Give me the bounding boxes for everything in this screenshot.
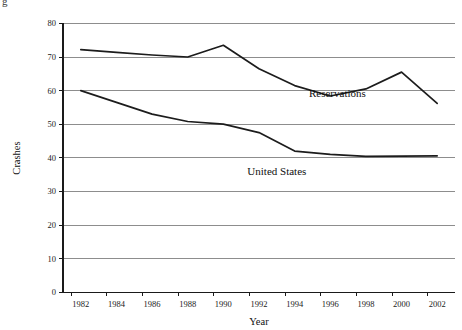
x-tick-label-1982: 1982	[72, 299, 89, 309]
series-annotations-group: ReservationsUnited States	[247, 87, 365, 176]
x-tick-label-2002: 2002	[429, 299, 446, 309]
series-lines-group	[81, 45, 437, 156]
x-tick-label-1994: 1994	[286, 299, 304, 309]
y-tick-label-30: 30	[48, 186, 57, 196]
series-label-united-states: United States	[247, 165, 306, 177]
series-line-reservations	[81, 45, 437, 103]
y-tick-label-20: 20	[48, 220, 57, 230]
y-tick-label-80: 80	[48, 18, 57, 28]
y-tick-label-50: 50	[48, 119, 57, 129]
y-tick-label-60: 60	[48, 86, 57, 96]
series-line-united-states	[81, 91, 437, 157]
x-tick-label-1998: 1998	[357, 299, 374, 309]
x-tick-label-2000: 2000	[393, 299, 410, 309]
x-tick-labels-group: 1982198419861988199019921994199619982000…	[72, 299, 445, 309]
x-tick-label-1990: 1990	[215, 299, 232, 309]
y-tick-label-10: 10	[48, 254, 57, 264]
y-ticks-group	[59, 23, 63, 292]
y-tick-label-40: 40	[48, 153, 57, 163]
series-label-reservations: Reservations	[309, 87, 366, 99]
x-tick-label-1992: 1992	[251, 299, 268, 309]
x-ticks-group	[71, 292, 427, 296]
x-axis-title: Year	[249, 316, 269, 327]
x-tick-label-1996: 1996	[322, 299, 339, 309]
corner-mark: g	[2, 0, 8, 6]
y-axis-title: Crashes	[11, 141, 22, 174]
x-tick-label-1988: 1988	[179, 299, 196, 309]
gridlines-group	[63, 23, 455, 258]
x-tick-label-1984: 1984	[108, 299, 126, 309]
x-tick-label-1986: 1986	[144, 299, 161, 309]
line-chart: 01020304050607080 1982198419861988199019…	[0, 0, 462, 330]
y-tick-label-70: 70	[48, 52, 57, 62]
y-tick-label-0: 0	[52, 287, 56, 297]
chart-container: g 01020304050607080 19821984198619881990…	[0, 0, 462, 330]
y-tick-labels-group: 01020304050607080	[48, 18, 57, 297]
